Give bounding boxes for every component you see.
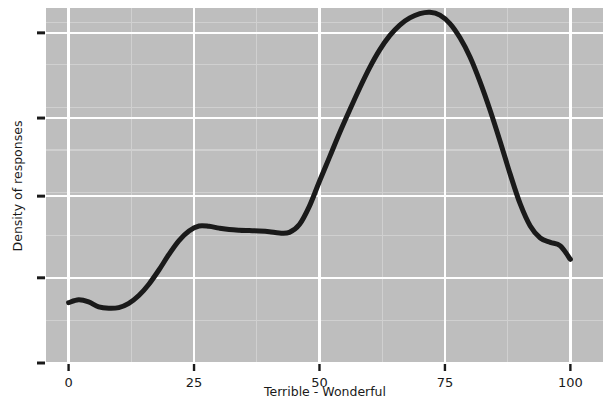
y-axis-title: Density of responses (10, 121, 25, 252)
x-axis-tick-label: 25 (186, 375, 203, 390)
x-axis-tick-label: 75 (437, 375, 454, 390)
chart-canvas: 0255075100 Terrible - Wonderful Density … (0, 0, 607, 416)
density-chart-figure: 0255075100 Terrible - Wonderful Density … (0, 0, 607, 416)
x-axis-tick-label: 100 (558, 375, 583, 390)
x-axis-title: Terrible - Wonderful (263, 384, 386, 399)
x-axis-tick-label: 0 (64, 375, 72, 390)
plot-panel-background (46, 8, 603, 363)
